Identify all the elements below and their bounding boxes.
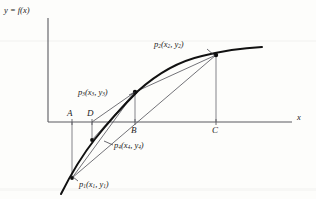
leader-lines-group (73, 49, 215, 181)
point-label-p4-close: ) (141, 140, 144, 150)
point-label-p3-index: 3 (82, 91, 85, 97)
point-label-p4: p4(x4, y4) (114, 141, 144, 150)
point-label-p1-yindex: 1 (103, 183, 106, 189)
axis-point-label-C: C (212, 126, 218, 135)
point-p2-marker (214, 53, 218, 57)
point-label-p2-xindex: 2 (168, 43, 171, 49)
function-curve (61, 47, 262, 194)
point-p4-marker (90, 138, 94, 142)
point-label-p2: p2(x2, y2) (154, 40, 184, 49)
point-label-p1: p1(x1, y1) (79, 180, 109, 189)
point-label-p1-xindex: 1 (93, 183, 96, 189)
point-label-p4-xvar: x (124, 140, 128, 150)
point-label-p3-yindex: 3 (102, 91, 105, 97)
leader-p4 (104, 141, 113, 145)
point-label-p2-close: ) (181, 39, 184, 49)
axis-point-label-B: B (131, 126, 137, 135)
axis-point-label-D: D (87, 109, 94, 118)
x-axis-label: x (297, 113, 301, 122)
function-curve-diagram (0, 0, 316, 199)
point-label-p4-xindex: 4 (128, 144, 131, 150)
point-label-p2-xvar: x (164, 39, 168, 49)
point-label-p3: p3(x3, y3) (78, 88, 108, 97)
y-axis-label: y = f(x) (4, 6, 30, 15)
leader-p1 (73, 177, 78, 181)
point-label-p4-index: 4 (118, 144, 121, 150)
chord-p3-p2 (135, 55, 216, 92)
point-label-p1-close: ) (106, 179, 109, 189)
point-label-p2-yindex: 2 (178, 43, 181, 49)
point-p1-marker (70, 176, 74, 180)
axes-group (48, 18, 292, 122)
point-label-p2-index: 2 (158, 43, 161, 49)
point-label-p3-xindex: 3 (92, 91, 95, 97)
point-label-p3-xvar: x (88, 87, 92, 97)
point-label-p3-close: ) (105, 87, 108, 97)
axis-point-label-A: A (67, 109, 73, 118)
point-label-p4-yindex: 4 (138, 144, 141, 150)
point-label-p1-xvar: x (89, 179, 93, 189)
point-label-p1-index: 1 (83, 183, 86, 189)
